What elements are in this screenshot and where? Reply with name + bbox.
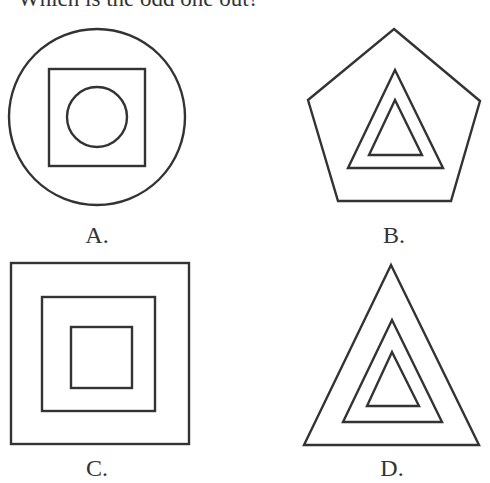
option-b-pentagon <box>308 29 480 201</box>
option-d-label: D. <box>380 455 403 482</box>
option-a-figure <box>9 29 185 205</box>
option-a-inner-circle <box>67 87 127 147</box>
option-c-middle-square <box>42 297 155 411</box>
figure-options <box>0 0 490 483</box>
option-c-label: C. <box>86 455 108 482</box>
option-c-figure <box>11 263 189 444</box>
option-a-square <box>49 69 145 166</box>
option-b-figure <box>308 29 480 201</box>
option-c-inner-square <box>71 327 132 388</box>
option-c-outer-square <box>11 263 189 444</box>
option-d-figure <box>304 265 479 445</box>
option-a-label: A. <box>85 222 108 249</box>
option-b-outer-triangle <box>348 70 443 168</box>
option-b-label: B. <box>383 222 405 249</box>
option-a-outer-circle <box>9 29 185 205</box>
